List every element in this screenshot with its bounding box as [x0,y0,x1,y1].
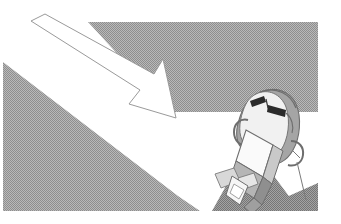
illustration-svg [0,0,341,224]
margin-left [0,0,3,224]
margin-right [318,0,341,224]
upper-right-gray-field-edge [88,22,318,30]
margin-bottom [0,211,341,224]
illustration-canvas: Instructional illustration: directional … [0,0,341,224]
